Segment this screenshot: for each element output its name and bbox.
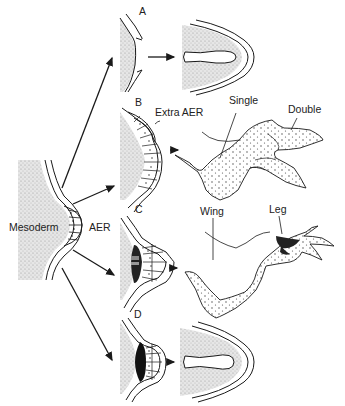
panel-b-result-double-wing xyxy=(175,120,323,200)
panel-b-graft xyxy=(120,108,162,212)
aer-label: AER xyxy=(89,222,111,233)
panel-d-result xyxy=(180,322,254,402)
diagram-canvas xyxy=(0,0,345,406)
wing-label: Wing xyxy=(200,206,224,217)
panel-label-b: B xyxy=(135,97,142,108)
leg-label: Leg xyxy=(269,204,287,215)
panel-c-result-wing-leg xyxy=(185,226,334,318)
mesoderm-label: Mesoderm xyxy=(9,222,59,233)
single-label: Single xyxy=(229,95,258,106)
panel-label-a: A xyxy=(139,6,146,17)
panel-c-graft xyxy=(120,216,174,312)
panel-a-graft xyxy=(120,14,142,92)
branch-arrows xyxy=(62,58,114,360)
panel-a-result xyxy=(182,20,254,95)
panel-d-graft xyxy=(120,318,166,402)
source-limb-bud xyxy=(18,160,82,280)
panel-label-c: C xyxy=(135,204,143,215)
extra-aer-label: Extra AER xyxy=(155,107,203,118)
double-label: Double xyxy=(288,104,321,115)
panel-label-d: D xyxy=(134,309,142,320)
